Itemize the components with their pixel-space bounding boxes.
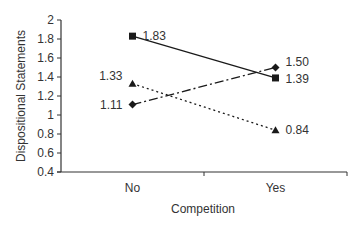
y-tick-label: 0.8: [37, 127, 54, 141]
triangle-marker: [272, 126, 280, 133]
y-tick-label: 1.8: [37, 32, 54, 46]
data-label: 1.33: [99, 69, 123, 83]
y-tick-label: 1.4: [37, 70, 54, 84]
y-tick-label: 1: [47, 108, 54, 122]
data-label: 1.83: [143, 29, 167, 43]
x-tick-label: No: [125, 181, 141, 195]
line-chart: 0.40.60.811.21.41.61.82 NoYes 1.831.391.…: [0, 0, 353, 228]
y-tick-label: 0.4: [37, 165, 54, 179]
triangle-marker: [129, 80, 137, 87]
diamond-marker: [129, 101, 137, 109]
y-axis-label: Dispositional Statements: [14, 30, 28, 162]
y-axis: 0.40.60.811.21.41.61.82: [37, 13, 61, 179]
x-tick-label: Yes: [266, 181, 286, 195]
square-marker: [272, 74, 279, 81]
series-square: 1.831.39: [129, 29, 309, 86]
data-label: 0.84: [286, 123, 310, 137]
diamond-marker: [272, 64, 280, 72]
x-axis-label: Competition: [171, 202, 235, 216]
data-label: 1.39: [286, 72, 310, 86]
square-marker: [129, 33, 136, 40]
y-tick-label: 0.6: [37, 146, 54, 160]
x-axis: NoYes: [57, 172, 347, 195]
data-label: 1.11: [100, 98, 123, 112]
y-tick-label: 2: [47, 13, 54, 27]
series-layer: 1.831.391.111.501.330.84: [99, 29, 309, 137]
series-line: [133, 68, 276, 105]
series-line: [133, 84, 276, 131]
data-label: 1.50: [286, 55, 310, 69]
y-tick-label: 1.2: [37, 89, 54, 103]
y-tick-label: 1.6: [37, 51, 54, 65]
